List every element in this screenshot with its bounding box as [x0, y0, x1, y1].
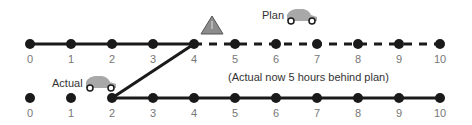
svg-text:1: 1: [68, 107, 74, 119]
warning-triangle-icon: [201, 16, 223, 34]
svg-text:8: 8: [355, 107, 361, 119]
svg-text:2: 2: [109, 53, 115, 65]
actual-label: Actual: [52, 77, 83, 89]
svg-text:5: 5: [232, 53, 238, 65]
svg-text:9: 9: [396, 53, 402, 65]
plan-label: Plan: [262, 9, 284, 21]
svg-text:9: 9: [396, 107, 402, 119]
svg-text:7: 7: [314, 53, 320, 65]
actual-tick-labels: 0 1 2 3 4 5 6 7 8 9 10: [27, 107, 446, 119]
svg-text:8: 8: [355, 53, 361, 65]
svg-text:5: 5: [232, 107, 238, 119]
svg-text:1: 1: [68, 53, 74, 65]
actual-car-icon: [86, 76, 116, 91]
svg-text:0: 0: [27, 53, 33, 65]
svg-text:6: 6: [273, 107, 279, 119]
svg-text:10: 10: [434, 53, 446, 65]
svg-text:6: 6: [273, 53, 279, 65]
svg-text:2: 2: [109, 107, 115, 119]
delay-note: (Actual now 5 hours behind plan): [228, 71, 389, 83]
svg-text:0: 0: [27, 107, 33, 119]
svg-text:7: 7: [314, 107, 320, 119]
svg-text:10: 10: [434, 107, 446, 119]
schedule-diagram: 0 1 2 3 4 5 6 7 8 9 10 0 1 2 3 4 5 6 7 8…: [0, 0, 472, 125]
plan-car-icon: [287, 9, 317, 24]
svg-text:4: 4: [191, 107, 197, 119]
svg-text:3: 3: [150, 107, 156, 119]
svg-text:4: 4: [191, 53, 197, 65]
svg-text:3: 3: [150, 53, 156, 65]
plan-tick-labels: 0 1 2 3 4 5 6 7 8 9 10: [27, 53, 446, 65]
